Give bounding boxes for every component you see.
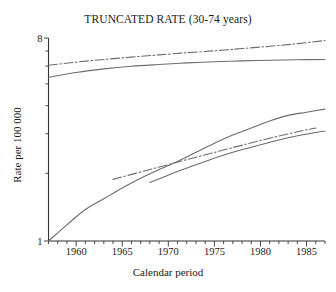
x-tick-label: 1960 (66, 246, 87, 257)
y-tick-label: 1 (37, 236, 42, 247)
series-lower-dashdot (113, 128, 316, 179)
y-axis-label-wrapper: Rate per 100 000 (6, 70, 28, 220)
x-tick-label: 1985 (296, 246, 317, 257)
y-axis-label: Rate per 100 000 (11, 107, 23, 182)
chart-figure: TRUNCATED RATE (30-74 years) Rate per 10… (0, 0, 336, 292)
data-curves-group (49, 40, 326, 241)
series-upper-dashdot (49, 40, 326, 65)
chart-title: TRUNCATED RATE (30-74 years) (0, 13, 336, 25)
x-tick-label: 1965 (112, 246, 133, 257)
x-tick-label: 1980 (250, 246, 271, 257)
x-tick-label: 1970 (158, 246, 179, 257)
tick-marks-group (44, 38, 325, 247)
x-tick-label: 1975 (204, 246, 225, 257)
series-lower-steep-solid (49, 109, 326, 241)
series-lower-flat-solid (150, 131, 325, 182)
axes-group (49, 38, 326, 241)
series-upper-solid (49, 59, 326, 77)
x-axis-label: Calendar period (0, 266, 336, 278)
y-tick-label: 8 (37, 33, 42, 44)
